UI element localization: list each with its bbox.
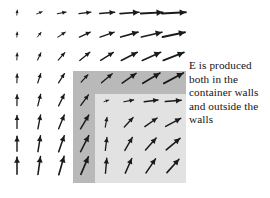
field-arrow: [16, 32, 19, 37]
field-arrow: [79, 10, 91, 15]
field-arrow: [104, 100, 109, 103]
field-arrow: [59, 156, 66, 174]
field-arrow: [125, 137, 133, 150]
field-arrow: [37, 157, 43, 175]
field-arrow: [165, 98, 181, 104]
field-arrow: [57, 11, 66, 15]
field-arrow: [59, 94, 65, 106]
field-arrow: [142, 52, 160, 61]
field-arrow: [124, 117, 133, 127]
annotation-line-3: container walls: [189, 86, 259, 100]
field-arrow: [167, 159, 179, 172]
field-arrow: [15, 115, 20, 128]
field-arrow: [102, 74, 113, 83]
field-arrow: [104, 117, 108, 127]
field-arrow: [125, 159, 132, 174]
field-arrow: [81, 75, 88, 82]
field-arrow: [162, 9, 186, 15]
field-arrow: [166, 138, 180, 150]
field-arrow: [59, 74, 65, 83]
field-arrow: [15, 74, 19, 83]
field-arrow: [58, 53, 65, 61]
field-arrow: [144, 98, 158, 103]
field-arrow: [121, 52, 137, 60]
field-arrow: [14, 136, 19, 151]
field-arrow: [141, 31, 161, 37]
annotation-line-5: walls: [189, 113, 259, 127]
field-arrow: [37, 32, 41, 37]
field-arrow: [37, 136, 42, 152]
field-arrow: [121, 31, 138, 37]
field-arrow: [15, 95, 19, 106]
field-arrow: [14, 157, 20, 174]
field-arrow: [143, 73, 160, 83]
field-arrow: [122, 73, 136, 83]
field-arrow: [58, 32, 65, 37]
field-arrow: [101, 52, 114, 60]
field-arrow: [80, 52, 90, 60]
field-arrow: [37, 11, 43, 14]
field-arrow: [166, 118, 181, 126]
field-arrow: [37, 94, 41, 106]
field-arrow: [38, 73, 42, 83]
electric-field-diagram: E is producedboth in thecontainer wallsa…: [0, 0, 270, 198]
field-arrow: [141, 9, 163, 15]
field-arrow: [124, 99, 134, 103]
field-arrow: [104, 138, 109, 151]
field-arrow: [81, 136, 89, 152]
field-arrow: [59, 136, 65, 152]
field-arrow: [79, 32, 90, 37]
field-arrow: [145, 118, 157, 127]
field-arrow: [163, 52, 184, 61]
field-arrow: [100, 31, 114, 37]
field-arrow: [37, 115, 42, 129]
field-arrow: [15, 53, 18, 60]
field-arrow: [164, 73, 183, 83]
field-arrow: [104, 158, 109, 173]
field-arrow: [81, 95, 89, 106]
annotation-line-2: both in the: [189, 73, 259, 87]
field-arrow: [38, 53, 42, 60]
annotation-line-1: E is produced: [189, 59, 259, 73]
field-arrow: [100, 10, 115, 15]
field-arrow: [81, 157, 89, 174]
field-arrow: [59, 115, 65, 129]
field-arrow: [120, 10, 139, 16]
annotation-text-block: E is producedboth in thecontainer wallsa…: [189, 59, 259, 127]
field-arrow: [163, 30, 186, 37]
field-arrow: [146, 138, 157, 150]
field-arrow: [16, 10, 19, 15]
field-arrow: [81, 115, 89, 129]
annotation-line-4: and outside the: [189, 100, 259, 114]
field-arrow: [146, 159, 156, 173]
